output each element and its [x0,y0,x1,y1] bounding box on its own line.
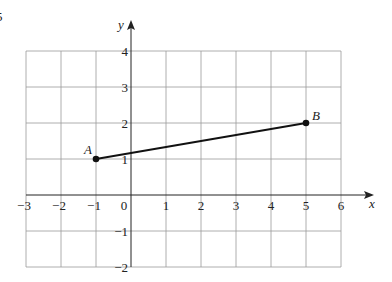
point-a-label: A [83,142,92,157]
svg-text:2: 2 [198,198,205,213]
svg-text:4: 4 [122,44,129,59]
svg-text:3: 3 [122,80,129,95]
point-b-label: B [312,108,320,123]
point-b [303,120,310,127]
svg-text:−1: −1 [87,198,101,213]
svg-text:−2: −2 [114,260,128,275]
svg-text:−1: −1 [114,224,128,239]
svg-text:0: 0 [121,198,128,213]
point-a [93,156,100,163]
question-number: 5 [0,9,3,24]
coordinate-plane: 5 x y −3 −2 −1 0 1 2 3 4 5 6 [0,0,392,282]
svg-text:2: 2 [122,116,129,131]
svg-text:−3: −3 [17,198,31,213]
svg-text:4: 4 [268,198,275,213]
svg-text:−2: −2 [52,198,66,213]
svg-text:1: 1 [163,198,170,213]
svg-text:3: 3 [233,198,240,213]
svg-text:5: 5 [303,198,310,213]
y-tick-labels: 4 3 2 1 −1 −2 [114,44,128,275]
grid [26,51,341,267]
y-axis-label: y [116,17,124,32]
svg-text:6: 6 [338,198,345,213]
x-tick-labels: −3 −2 −1 0 1 2 3 4 5 6 [17,198,345,213]
x-axis-label: x [368,196,375,211]
